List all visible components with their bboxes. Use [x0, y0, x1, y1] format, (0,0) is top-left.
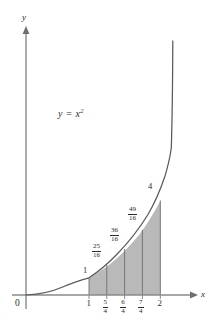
rect-label-4: 4	[148, 182, 152, 191]
fraction-numerator: 49	[128, 206, 137, 213]
rect-label-1: 1	[83, 266, 87, 275]
rect-label-36-16: 36 16	[110, 227, 119, 244]
fraction-denominator: 4	[120, 308, 126, 315]
fraction-7-4: 7 4	[138, 299, 144, 316]
fraction-denominator: 16	[92, 252, 101, 259]
fraction-numerator: 36	[110, 227, 119, 234]
fraction-denominator: 16	[110, 236, 119, 243]
x-tick-label-1: 1	[87, 299, 92, 308]
y-axis-arrowhead	[23, 26, 30, 34]
fraction-denominator: 16	[128, 215, 137, 222]
x-tick-label-6-4: 6 4	[120, 299, 126, 316]
fraction-36-16: 36 16	[110, 227, 119, 244]
fraction-denominator: 4	[138, 308, 144, 315]
fraction-numerator: 5	[103, 299, 109, 306]
x-tick-label-7-4: 7 4	[138, 299, 144, 316]
origin-label: 0	[15, 299, 20, 309]
fraction-49-16: 49 16	[128, 206, 137, 223]
riemann-sum-figure: y x 0 y = x2 1 5 4 6 4 7 4 2 1 25	[0, 0, 213, 334]
curve-equation-base: y = x	[58, 108, 80, 119]
x-tick-label-5-4: 5 4	[103, 299, 109, 316]
fraction-5-4: 5 4	[103, 299, 109, 316]
rect-label-25-16: 25 16	[92, 243, 101, 260]
x-axis-label: x	[201, 290, 205, 299]
fraction-numerator: 25	[92, 243, 101, 250]
fraction-6-4: 6 4	[120, 299, 126, 316]
plot-canvas	[0, 0, 213, 334]
curve-equation-label: y = x2	[58, 108, 84, 119]
fraction-numerator: 6	[120, 299, 126, 306]
curve-equation-exponent: 2	[80, 107, 84, 114]
fraction-denominator: 4	[103, 308, 109, 315]
fraction-25-16: 25 16	[92, 243, 101, 260]
x-axis-arrowhead	[190, 292, 198, 299]
rect-label-49-16: 49 16	[128, 206, 137, 223]
y-axis-label: y	[22, 13, 26, 22]
x-tick-label-2: 2	[158, 299, 163, 308]
fraction-numerator: 7	[138, 299, 144, 306]
